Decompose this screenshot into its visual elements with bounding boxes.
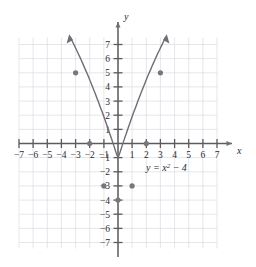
x-tick-label: 4 bbox=[172, 150, 177, 160]
x-tick-label: 3 bbox=[158, 150, 163, 160]
x-tick-label: 2 bbox=[144, 150, 149, 160]
y-tick-label: 4 bbox=[105, 82, 110, 92]
y-tick-label: −7 bbox=[100, 238, 110, 248]
chart-background bbox=[0, 0, 256, 267]
y-tick-label: 3 bbox=[105, 97, 110, 107]
x-tick-label: 7 bbox=[215, 150, 220, 160]
x-axis-label: x bbox=[236, 145, 242, 156]
data-point-marker bbox=[115, 198, 120, 203]
x-tick-label: 5 bbox=[186, 150, 191, 160]
equation-tail: − 4 bbox=[170, 162, 187, 173]
x-tick-label: −2 bbox=[85, 150, 95, 160]
data-point-marker bbox=[144, 141, 149, 146]
data-point-marker bbox=[158, 70, 163, 75]
coordinate-plane-figure: −7 −6 −5 −4 −3 −2 −1 1 2 3 4 5 6 7 7 6 5… bbox=[0, 0, 256, 267]
data-point-marker bbox=[101, 183, 106, 188]
equation-label: y = x2 − 4 bbox=[145, 162, 187, 174]
y-tick-label: −4 bbox=[100, 196, 110, 206]
y-tick-label: 5 bbox=[105, 68, 110, 78]
y-tick-label: −2 bbox=[100, 167, 110, 177]
x-tick-label: 1 bbox=[130, 150, 135, 160]
y-tick-label: −5 bbox=[100, 210, 110, 220]
x-tick-label: −7 bbox=[14, 150, 24, 160]
x-tick-label: −6 bbox=[28, 150, 38, 160]
data-point-marker bbox=[73, 70, 78, 75]
x-tick-label: −5 bbox=[42, 150, 52, 160]
y-axis-label: y bbox=[123, 11, 129, 22]
y-tick-label: 6 bbox=[105, 54, 110, 64]
y-tick-label: −1 bbox=[100, 153, 110, 163]
parabola-graph-svg: −7 −6 −5 −4 −3 −2 −1 1 2 3 4 5 6 7 7 6 5… bbox=[0, 0, 256, 267]
data-point-marker bbox=[87, 141, 92, 146]
equation-main: y = x bbox=[145, 162, 167, 173]
y-tick-label: 2 bbox=[105, 111, 110, 121]
data-point-marker bbox=[130, 183, 135, 188]
x-tick-label: −3 bbox=[71, 150, 81, 160]
x-tick-label: 6 bbox=[201, 150, 206, 160]
x-tick-label: −4 bbox=[56, 150, 66, 160]
y-tick-label: 7 bbox=[105, 40, 110, 50]
y-tick-label: −6 bbox=[100, 224, 110, 234]
